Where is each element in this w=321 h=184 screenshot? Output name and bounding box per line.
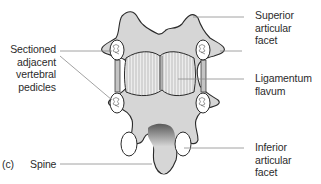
inferior-articular-facet-left: [121, 132, 137, 156]
pedicle-right: [201, 60, 206, 92]
label-inferior-line1: Inferior articular: [255, 141, 321, 166]
panel-label: (c): [2, 158, 14, 171]
label-ligamentum-line2: flavum: [255, 85, 312, 98]
label-ligamentum-line1: Ligamentum: [255, 72, 312, 85]
label-inferior-line2: facet: [255, 166, 321, 179]
label-sectioned-line2: adjacent: [4, 56, 56, 69]
vertebra-diagram: Superior articular facet Sectioned adjac…: [0, 0, 321, 184]
label-sectioned-line4: pedicles: [4, 81, 56, 94]
label-superior-articular-facet: Superior articular facet: [255, 9, 321, 47]
leader-sectioned-bottom: [60, 56, 112, 100]
label-superior-line1: Superior articular: [255, 9, 321, 34]
sectioned-pedicle-top-right: [196, 40, 210, 60]
sectioned-pedicle-top-left: [110, 40, 124, 60]
label-spine: Spine: [30, 158, 56, 171]
label-sectioned-line1: Sectioned: [4, 43, 56, 56]
label-sectioned-pedicles: Sectioned adjacent vertebral pedicles: [4, 43, 56, 93]
inferior-articular-facet-right: [175, 132, 191, 156]
label-sectioned-line3: vertebral: [4, 68, 56, 81]
pedicle-left: [115, 60, 120, 92]
sectioned-pedicle-bottom-right: [196, 93, 210, 113]
sectioned-pedicle-bottom-left: [110, 93, 124, 113]
label-inferior-articular-facet: Inferior articular facet: [255, 141, 321, 179]
label-superior-line2: facet: [255, 34, 321, 47]
label-ligamentum-flavum: Ligamentum flavum: [255, 72, 312, 97]
